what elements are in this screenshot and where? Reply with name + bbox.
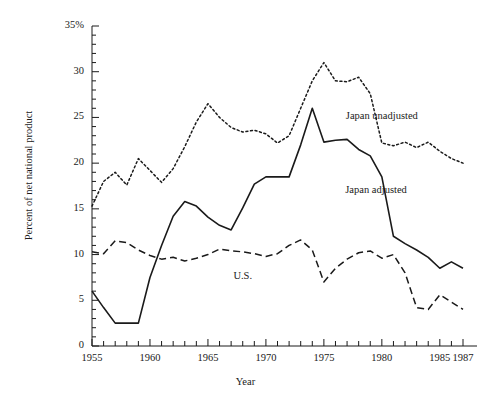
y-tick-label: 30	[36, 65, 84, 76]
series-label-japan-adjusted: Japan adjusted	[345, 184, 407, 195]
y-tick-label: 5	[36, 293, 84, 304]
series-label-us: U.S.	[233, 270, 252, 281]
x-tick-label: 1975	[302, 352, 346, 363]
x-tick-label: 1960	[128, 352, 172, 363]
y-tick-label: 10	[36, 248, 84, 259]
series-line-japan-unadjusted	[92, 63, 463, 207]
data-series-lines	[92, 63, 463, 324]
x-tick-label: 1955	[70, 352, 114, 363]
y-tick-label: 35%	[36, 19, 84, 30]
axis-lines	[92, 26, 477, 346]
series-line-japan-adjusted	[92, 108, 463, 323]
y-axis-title: Percent of net national product	[23, 86, 34, 266]
y-tick-label: 0	[36, 339, 84, 350]
x-tick-label: 1970	[244, 352, 288, 363]
x-axis-title: Year	[0, 376, 491, 387]
x-tick-label: 1965	[186, 352, 230, 363]
x-axis-ticks	[92, 339, 463, 346]
chart-figure: 05101520253035%1955196019651970197519801…	[0, 0, 491, 410]
series-line-u-s	[92, 240, 463, 309]
series-label-japan-unadjusted: Japan unadjusted	[346, 110, 418, 121]
y-tick-label: 20	[36, 156, 84, 167]
x-tick-label: 1980	[360, 352, 404, 363]
y-axis-ticks	[92, 26, 99, 346]
y-tick-label: 25	[36, 110, 84, 121]
x-tick-label: 1987	[441, 352, 485, 363]
y-tick-label: 15	[36, 202, 84, 213]
